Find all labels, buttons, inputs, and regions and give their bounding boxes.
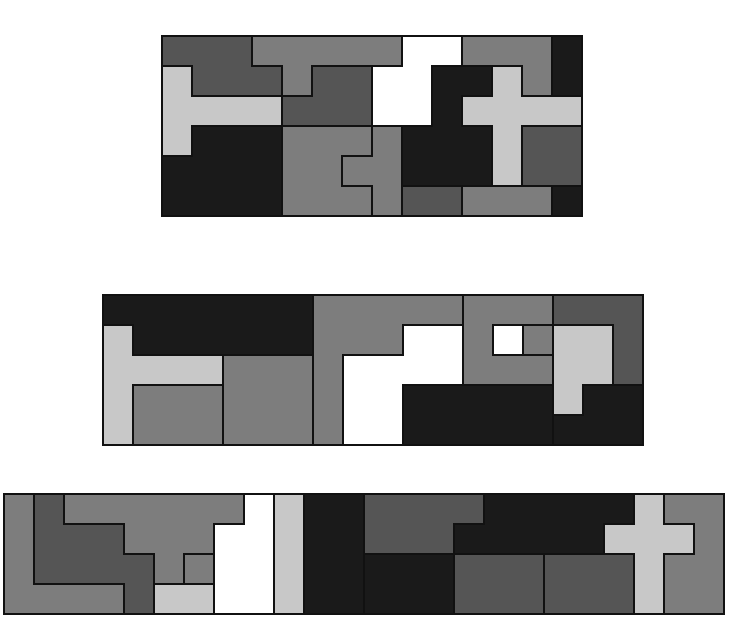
piece-t3-m — [664, 494, 724, 614]
block-bottom — [4, 494, 724, 614]
piece-t2-g — [403, 385, 553, 445]
piece-t3-f — [304, 494, 364, 614]
piece-t3-k — [544, 554, 634, 614]
piece-t3-h — [364, 554, 454, 614]
piece-t3-j — [454, 554, 544, 614]
piece-t2-c — [133, 385, 223, 445]
block-top — [162, 36, 582, 216]
tilings-canvas — [0, 0, 749, 627]
block-middle — [103, 295, 643, 445]
